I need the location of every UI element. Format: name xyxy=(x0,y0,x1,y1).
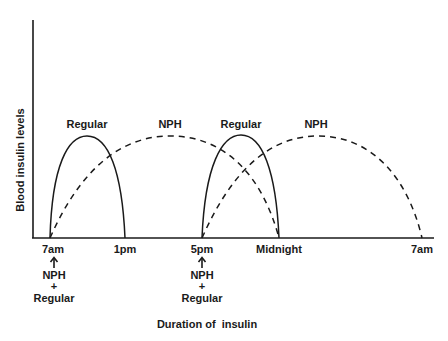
tick-midnight: Midnight xyxy=(256,243,302,255)
arrow-up-icon xyxy=(51,258,58,269)
tick-7am-start: 7am xyxy=(42,243,64,255)
label-nph-evening: NPH xyxy=(304,118,327,130)
label-nph-morning: NPH xyxy=(158,118,181,130)
arrow-up-icon xyxy=(199,258,206,269)
tick-7am-end: 7am xyxy=(411,243,433,255)
injection-annotation-evening: NPH + Regular xyxy=(182,258,224,305)
x-axis-title: Duration of insulin xyxy=(157,318,257,330)
curve-regular-morning xyxy=(50,136,125,238)
annotation-regular: Regular xyxy=(34,292,76,304)
curves xyxy=(50,135,422,238)
label-regular-morning: Regular xyxy=(67,118,109,130)
annotation-regular: Regular xyxy=(182,292,224,304)
tick-1pm: 1pm xyxy=(114,243,137,255)
insulin-duration-diagram: Blood insulin levels Regular NPH Regular… xyxy=(0,0,448,341)
curve-nph-evening xyxy=(202,136,422,238)
curve-nph-morning xyxy=(50,136,279,238)
label-regular-evening: Regular xyxy=(221,118,263,130)
y-axis-title: Blood insulin levels xyxy=(14,108,26,211)
annotation-plus: + xyxy=(199,280,205,292)
annotation-plus: + xyxy=(51,280,57,292)
tick-5pm: 5pm xyxy=(191,243,214,255)
injection-annotation-morning: NPH + Regular xyxy=(34,258,76,305)
